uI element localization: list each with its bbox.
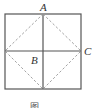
label-c: C <box>84 45 92 57</box>
geometry-figure: A B C 图 …… <box>0 0 96 108</box>
figure-caption: 图 …… <box>30 102 59 108</box>
label-b: B <box>31 54 38 66</box>
label-a: A <box>39 1 47 13</box>
